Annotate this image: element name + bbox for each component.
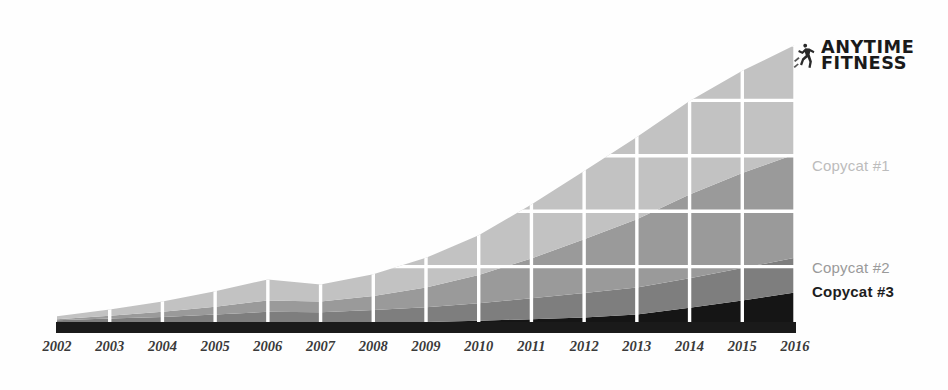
x-tick-2003: 2003 — [95, 338, 124, 355]
x-tick-2010: 2010 — [464, 338, 493, 355]
x-tick-2013: 2013 — [622, 338, 651, 355]
logo-line-fitness: FITNESS — [821, 56, 914, 72]
x-tick-2006: 2006 — [253, 338, 282, 355]
x-tick-2009: 2009 — [412, 338, 441, 355]
series-label-copycat-1: Copycat #1 — [812, 157, 890, 174]
x-tick-2002: 2002 — [43, 338, 72, 355]
x-tick-2012: 2012 — [570, 338, 599, 355]
series-label-copycat-3: Copycat #3 — [812, 283, 894, 300]
x-tick-2015: 2015 — [728, 338, 757, 355]
x-tick-2007: 2007 — [306, 338, 335, 355]
x-tick-2014: 2014 — [675, 338, 704, 355]
logo-wordmark: ANYTIME FITNESS — [821, 40, 911, 71]
chart-canvas: 2002200320042005200620072008200920102011… — [0, 0, 948, 390]
runner-icon — [793, 41, 819, 71]
axis-base-band — [56, 322, 796, 333]
series-label-copycat-2: Copycat #2 — [812, 259, 890, 276]
x-tick-2016: 2016 — [781, 338, 810, 355]
x-tick-2005: 2005 — [201, 338, 230, 355]
axis-base-band-rect — [56, 322, 796, 333]
x-tick-2004: 2004 — [148, 338, 177, 355]
x-tick-2008: 2008 — [359, 338, 388, 355]
anytime-fitness-logo: ANYTIME FITNESS — [793, 36, 943, 76]
x-axis-tick-labels: 2002200320042005200620072008200920102011… — [57, 338, 797, 364]
x-tick-2011: 2011 — [517, 338, 545, 355]
